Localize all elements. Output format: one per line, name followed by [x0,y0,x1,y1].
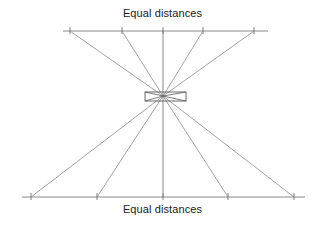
ray-lower-outer-left [31,96,163,197]
equal-distances-diagram: Equal distances Equal distances [0,0,325,229]
ray-upper-inner-left [122,31,163,96]
ray-lower-inner-right [163,96,228,197]
ray-upper-outer-right [163,31,254,96]
ray-upper-inner-right [163,31,203,96]
ray-lower-outer-right [163,96,294,197]
ray-lower-inner-left [97,96,163,197]
ray-upper-outer-left [70,31,163,96]
top-label: Equal distances [0,7,325,19]
diagram-canvas [0,0,325,229]
bottom-label: Equal distances [0,203,325,215]
